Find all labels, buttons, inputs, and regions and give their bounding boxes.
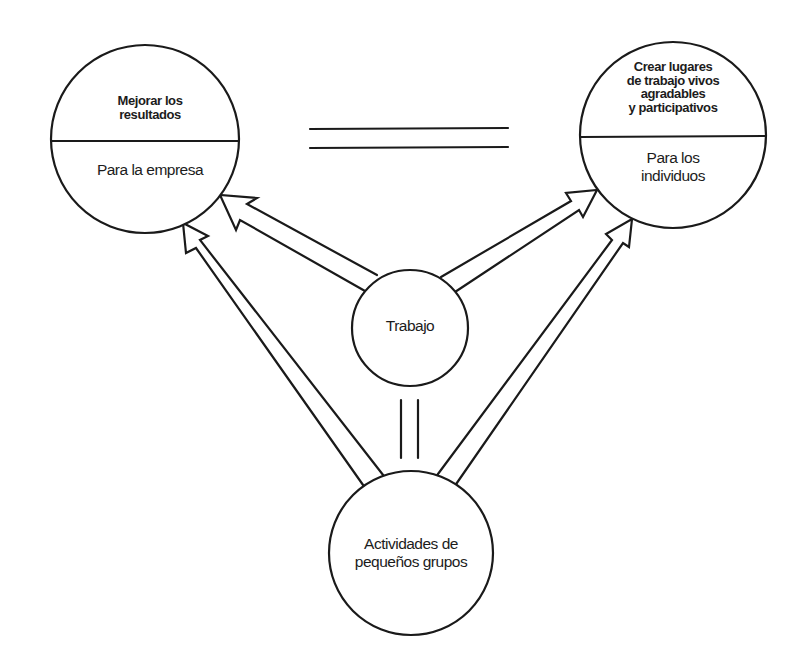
equals-sign-vertical <box>401 400 418 458</box>
individuos-goal-line-4: y participativos <box>608 101 738 115</box>
individuos-beneficiary-line-2: individuos <box>613 167 733 185</box>
empresa-goal-line-1: Mejorar los <box>95 94 205 108</box>
arrow-trabajo-to-individuos <box>441 190 597 292</box>
empresa-goal-line-2: resultados <box>95 108 205 122</box>
arrow-actividades-to-individuos <box>435 219 632 490</box>
node-individuos-divider <box>580 136 766 137</box>
trabajo-label: Trabajo <box>360 317 460 335</box>
individuos-goal-line-2: de trabajo vivos <box>608 74 738 88</box>
individuos-beneficiary-line-1: Para los <box>613 149 733 167</box>
equals-sign-horizontal <box>310 128 508 148</box>
individuos-goal-line-3: agradables <box>608 87 738 101</box>
node-empresa <box>51 45 239 233</box>
actividades-line-1: Actividades de <box>336 535 486 553</box>
individuos-beneficiary-label: Para los individuos <box>613 149 733 186</box>
arrow-trabajo-to-empresa <box>220 195 377 291</box>
individuos-goal-line-1: Crear lugares <box>608 60 738 74</box>
individuos-goal-label: Crear lugares de trabajo vivos agradable… <box>608 60 738 115</box>
empresa-goal-label: Mejorar los resultados <box>95 94 205 121</box>
actividades-line-2: pequeños grupos <box>336 553 486 571</box>
actividades-label: Actividades de pequeños grupos <box>336 535 486 572</box>
empresa-beneficiary-label: Para la empresa <box>75 161 225 179</box>
